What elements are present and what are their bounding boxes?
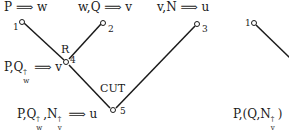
edge-1b <box>256 25 289 58</box>
node-label-5: 5 <box>120 106 126 116</box>
node-4 <box>64 60 69 65</box>
rule-label-r: R <box>61 43 69 57</box>
node-1 <box>20 20 25 25</box>
edge-1-4 <box>24 23 64 60</box>
sequent-4: P,Q†w ⟹ v <box>4 60 62 74</box>
node-3 <box>195 22 200 27</box>
node-label-1b: 1 <box>245 18 251 28</box>
rule-label-cut: CUT <box>100 82 125 96</box>
node-label-2: 2 <box>108 24 114 34</box>
node-label-4: 4 <box>70 55 76 65</box>
sequent-5: P,Q†w,N†v ⟹ u <box>17 107 97 121</box>
node-5 <box>111 108 116 113</box>
node-1b <box>252 21 257 26</box>
node-2 <box>101 21 106 26</box>
edge-2-4 <box>69 24 101 59</box>
node-label-1: 1 <box>13 22 19 32</box>
sequent-2: w,Q ⟹ v <box>78 0 132 14</box>
node-label-3: 3 <box>202 24 208 34</box>
sequent-1: P ⟹ w <box>4 0 47 14</box>
edge-3-5 <box>116 26 195 108</box>
sequent-6: P,(Q,N†v) <box>233 107 282 121</box>
sequent-3: v,N ⟹ u <box>157 0 209 14</box>
